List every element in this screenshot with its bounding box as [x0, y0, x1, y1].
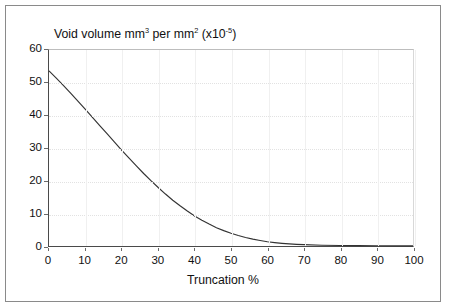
x-tick-mark	[414, 248, 415, 251]
x-tick-mark	[268, 248, 269, 251]
gridline-horizontal	[49, 149, 413, 150]
gridline-horizontal	[49, 182, 413, 183]
x-tick-mark	[85, 248, 86, 251]
x-tick-label: 90	[357, 255, 397, 267]
x-tick-label: 0	[28, 255, 68, 267]
x-tick-mark	[377, 248, 378, 251]
gridline-vertical	[159, 50, 160, 246]
gridline-vertical	[122, 50, 123, 246]
y-tick-label: 30	[6, 142, 42, 154]
x-tick-mark	[231, 248, 232, 251]
x-tick-mark	[341, 248, 342, 251]
gridline-horizontal	[49, 116, 413, 117]
plot-title: Void volume mm3 per mm2 (x10-5)	[54, 28, 236, 41]
gridline-horizontal	[49, 83, 413, 84]
x-tick-label: 20	[101, 255, 141, 267]
plot-title-seg2: per mm	[149, 27, 194, 41]
gridline-vertical	[378, 50, 379, 246]
x-tick-mark	[121, 248, 122, 251]
x-tick-label: 70	[284, 255, 324, 267]
x-axis-title: Truncation %	[6, 274, 440, 287]
x-tick-label: 10	[65, 255, 105, 267]
plot-title-seg3: (x10	[198, 27, 225, 41]
gridline-vertical	[269, 50, 270, 246]
x-tick-mark	[304, 248, 305, 251]
y-tick-label: 40	[6, 109, 42, 121]
plot-title-seg1: Void volume mm	[54, 27, 145, 41]
x-tick-label: 60	[248, 255, 288, 267]
x-tick-label: 50	[211, 255, 251, 267]
x-tick-label: 30	[138, 255, 178, 267]
x-tick-label: 40	[174, 255, 214, 267]
gridline-vertical	[195, 50, 196, 246]
y-tick-label: 10	[6, 208, 42, 220]
x-tick-label: 100	[394, 255, 434, 267]
plot-title-seg4: )	[232, 27, 236, 41]
y-tick-label: 20	[6, 175, 42, 187]
gridline-vertical	[415, 50, 416, 246]
data-curve	[49, 50, 413, 246]
plot-area	[48, 49, 414, 247]
gridline-horizontal	[49, 215, 413, 216]
y-tick-label: 50	[6, 76, 42, 88]
x-tick-label: 80	[321, 255, 361, 267]
gridline-vertical	[305, 50, 306, 246]
y-tick-label: 0	[6, 241, 42, 253]
gridline-vertical	[232, 50, 233, 246]
figure-frame: Void volume mm3 per mm2 (x10-5) 01020304…	[5, 5, 441, 302]
x-tick-mark	[194, 248, 195, 251]
gridline-vertical	[342, 50, 343, 246]
y-tick-label: 60	[6, 43, 42, 55]
gridline-vertical	[86, 50, 87, 246]
x-tick-mark	[48, 248, 49, 251]
x-tick-mark	[158, 248, 159, 251]
